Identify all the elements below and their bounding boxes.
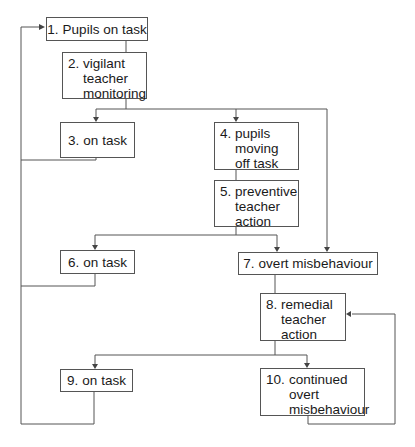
node-number: 2. bbox=[68, 56, 79, 71]
node-2-vigilant-teacher-monitoring: 2. vigilant teacher monitoring bbox=[62, 52, 147, 99]
node-label-line: action bbox=[266, 327, 340, 342]
node-number: 4. bbox=[220, 126, 231, 141]
node-10-continued-overt-misbehaviour: 10. continued overt misbehaviour bbox=[260, 368, 365, 416]
node-number: 7. bbox=[243, 256, 254, 271]
node-number: 1. bbox=[47, 22, 58, 37]
flowchart-canvas: 1.Pupils on task 2. vigilant teacher mon… bbox=[0, 0, 415, 447]
node-number: 8. bbox=[266, 297, 277, 312]
node-6-on-task: 6.on task bbox=[60, 250, 135, 274]
node-label: on task bbox=[78, 373, 126, 388]
node-label: on task bbox=[79, 255, 127, 270]
node-number: 9. bbox=[67, 373, 78, 388]
node-label-line: teacher bbox=[220, 199, 293, 214]
node-9-on-task: 9.on task bbox=[60, 369, 133, 392]
arrowhead-8 bbox=[346, 311, 351, 317]
node-label-line: monitoring bbox=[68, 86, 141, 101]
node-number: 3. bbox=[68, 133, 79, 148]
node-label: overt misbehaviour bbox=[255, 256, 373, 271]
node-7-overt-misbehaviour: 7.overt misbehaviour bbox=[238, 252, 378, 275]
node-label-line: misbehaviour bbox=[266, 402, 359, 417]
node-label-line: teacher bbox=[266, 312, 340, 327]
node-label-line: moving bbox=[220, 141, 293, 156]
node-3-on-task: 3.on task bbox=[60, 122, 135, 158]
node-8-remedial-teacher-action: 8. remedial teacher action bbox=[260, 293, 346, 341]
node-4-pupils-moving-off-task: 4. pupils moving off task bbox=[214, 122, 299, 170]
node-5-preventive-teacher-action: 5. preventive teacher action bbox=[214, 180, 299, 227]
node-number: 5. bbox=[220, 184, 231, 199]
node-label-line: off task bbox=[220, 156, 293, 171]
node-label-line: teacher bbox=[68, 71, 141, 86]
node-label: on task bbox=[79, 133, 127, 148]
node-label-line: action bbox=[220, 214, 293, 229]
edge-6-1 bbox=[21, 273, 95, 286]
node-label: Pupils on task bbox=[59, 22, 147, 37]
node-number: 6. bbox=[68, 255, 79, 270]
node-number: 10. bbox=[266, 372, 285, 387]
arrowhead-1 bbox=[39, 24, 45, 30]
node-1-pupils-on-task: 1.Pupils on task bbox=[46, 17, 148, 41]
node-label-line: overt bbox=[266, 387, 359, 402]
